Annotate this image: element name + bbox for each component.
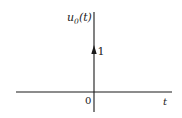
y-axis-label: u0(t)	[67, 11, 92, 26]
x-axis-label: t	[163, 96, 168, 107]
impulse-arrow-icon	[91, 45, 96, 54]
impulse-weight-label: 1	[98, 45, 105, 58]
origin-label: 0	[85, 95, 91, 106]
impulse-diagram: u0(t) 1 0 t	[0, 0, 182, 118]
